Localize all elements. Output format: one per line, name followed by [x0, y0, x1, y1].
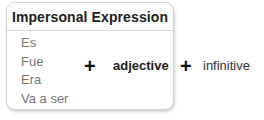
verb-item-es: Es	[21, 34, 173, 53]
infinitive-label: infinitive	[203, 58, 250, 74]
plus-icon: +	[84, 56, 96, 76]
plus-icon: +	[180, 56, 192, 76]
box-header: Impersonal Expression	[7, 3, 173, 31]
adjective-label: adjective	[113, 58, 169, 74]
verb-item-va-a-ser: Va a ser	[21, 90, 173, 109]
